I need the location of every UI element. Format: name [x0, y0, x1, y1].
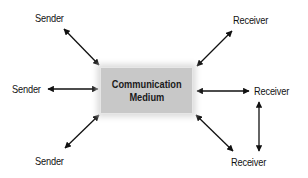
arrow-receiver-top [197, 31, 232, 66]
arrow-receiver-bottom [196, 115, 233, 151]
medium-label-line2: Medium [129, 91, 164, 104]
receiver-top-label: Receiver [233, 14, 268, 26]
receiver-bottom-label: Receiver [231, 156, 266, 168]
receiver-middle-label: Receiver [254, 85, 289, 97]
sender-bottom-label: Sender [35, 155, 64, 167]
communication-medium-box: Communication Medium [100, 67, 193, 114]
arrow-sender-bottom [65, 115, 99, 148]
communication-diagram: Communication Medium Sender Sender Sende… [0, 0, 308, 178]
arrow-sender-top [64, 29, 99, 65]
sender-middle-label: Sender [12, 83, 41, 95]
medium-label-line1: Communication [112, 78, 182, 91]
sender-top-label: Sender [35, 12, 64, 24]
